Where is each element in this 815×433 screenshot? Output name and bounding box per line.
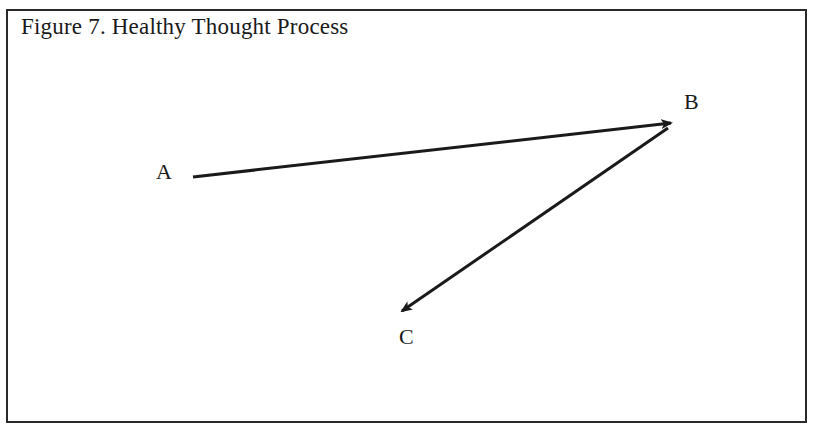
node-label-a: A [156, 161, 172, 183]
arrow-b-to-c [402, 128, 668, 311]
node-label-b: B [684, 91, 699, 113]
node-label-c: C [399, 326, 414, 348]
diagram-canvas [0, 0, 815, 433]
arrow-a-to-b [193, 123, 671, 177]
